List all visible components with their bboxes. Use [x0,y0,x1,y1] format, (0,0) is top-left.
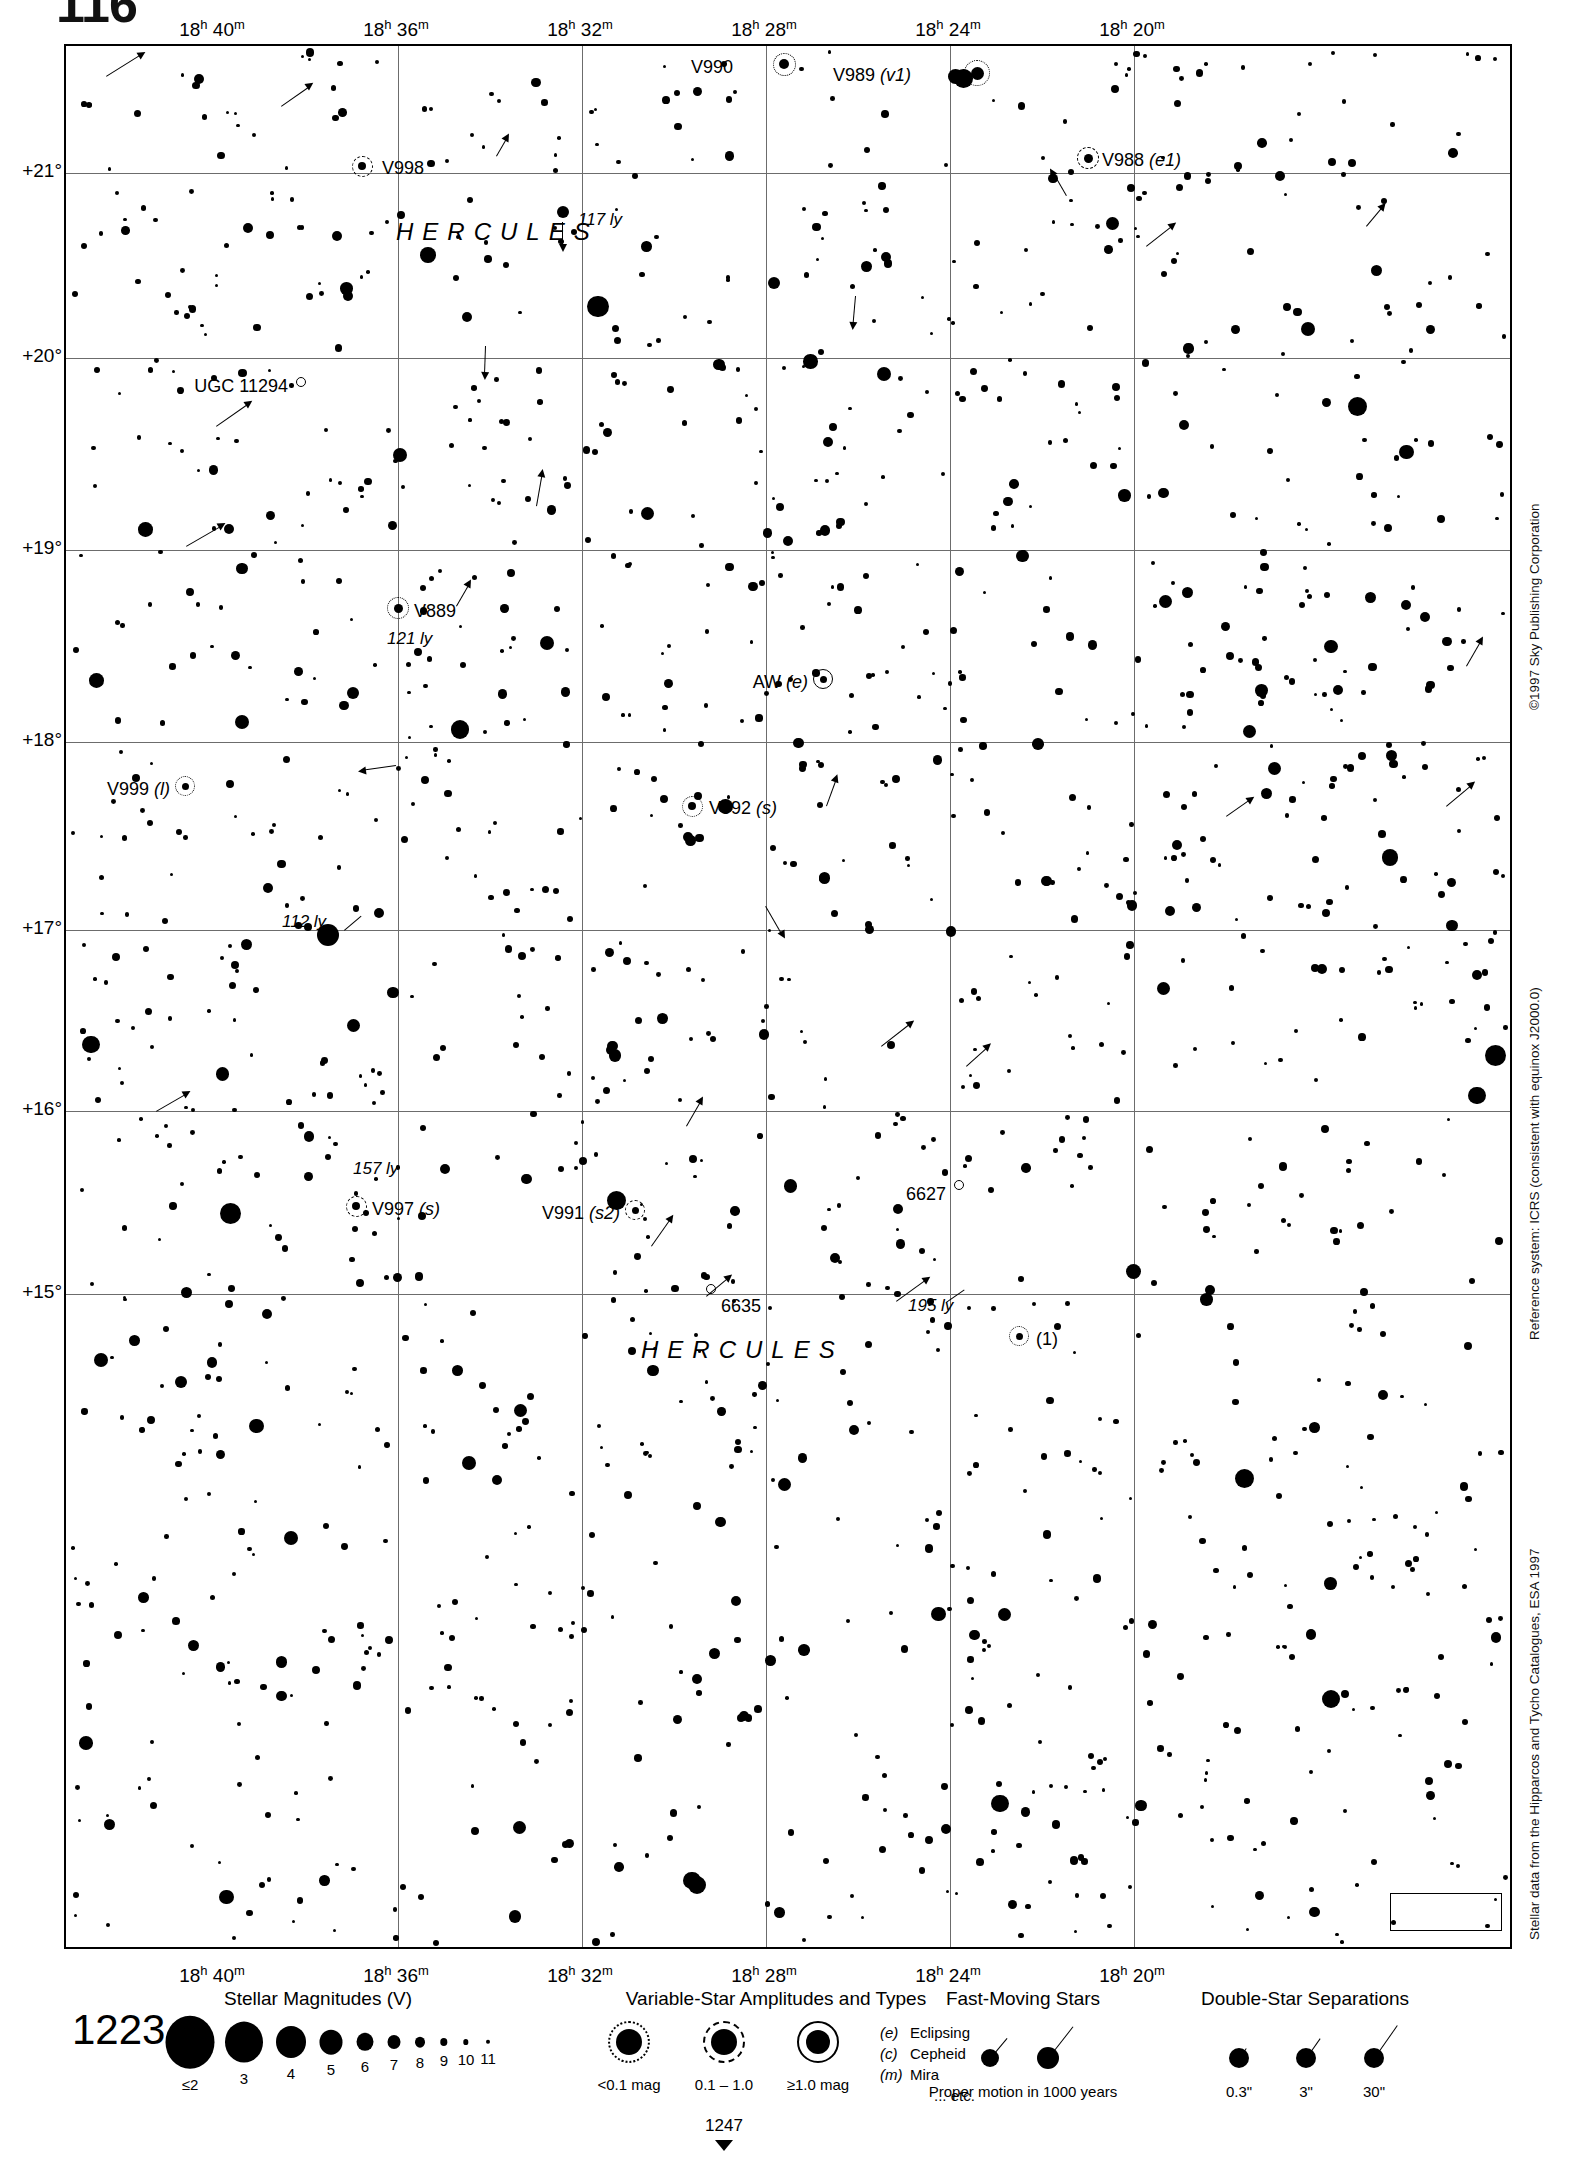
star-marker [745,394,748,397]
ra-tick-label: 18h 40m [179,17,245,41]
legend-magnitude-dot [415,2037,425,2048]
star-marker [673,1715,682,1724]
star-marker [850,284,855,289]
star-marker [1244,585,1248,589]
star-marker [782,366,786,370]
star-marker [787,978,791,982]
star-marker [1077,1153,1082,1158]
dec-tick-label: +19° [0,537,62,559]
star-marker [429,1686,433,1690]
star-marker [453,405,457,409]
star-marker [520,1015,524,1019]
object-label: (1) [1036,1329,1058,1350]
star-marker [900,1116,906,1122]
star-marker [338,108,347,117]
star-marker [1472,970,1482,980]
star-marker [846,1619,850,1623]
star-marker [306,293,313,300]
star-marker [433,1054,440,1061]
star-marker [1212,1235,1216,1239]
star-marker [683,315,687,319]
star-marker [337,865,341,869]
star-marker [400,1884,406,1890]
star-marker [537,399,542,404]
star-marker [635,1017,642,1024]
star-marker [1200,1805,1204,1809]
star-marker [587,296,608,317]
star-marker [1032,1302,1036,1306]
star-marker [605,1463,609,1467]
star-marker [1247,1203,1251,1207]
star-marker [1210,444,1214,448]
star-marker [591,967,596,972]
star-marker [1413,1556,1419,1562]
star-marker [1129,1618,1134,1623]
star-marker [274,541,277,544]
star-marker [669,1624,674,1629]
star-marker [765,1655,776,1666]
legend-magnitude-value: ≤2 [182,2076,199,2093]
star-marker [689,1037,693,1041]
star-marker [224,243,230,249]
star-marker [1346,1465,1349,1468]
variable-amplitude-ring [1009,1326,1029,1346]
star-marker [1420,612,1430,622]
star-marker [468,484,471,487]
star-marker [285,903,289,907]
star-marker [866,1282,871,1287]
star-marker [571,1621,575,1625]
star-marker [216,1376,222,1382]
star-marker [401,836,408,843]
star-marker [581,1627,587,1633]
star-chart-map[interactable]: V990V989 (v1)V988 (e1)V998UGC 11294V889A… [64,44,1512,1949]
star-marker [1305,589,1309,593]
star-marker [1297,112,1301,116]
star-marker [1293,1451,1297,1455]
star-marker [248,666,251,669]
star-marker [973,1462,979,1468]
star-marker [840,1369,846,1375]
star-marker [175,1461,182,1468]
star-marker [143,946,149,952]
star-marker [1486,1617,1492,1623]
star-marker [1387,311,1392,316]
star-marker [1399,445,1413,459]
star-marker [1380,1331,1386,1337]
star-marker [1345,1381,1351,1387]
star-marker [343,507,349,513]
object-label: 6627 [66,1184,946,1205]
star-marker [1136,1333,1141,1338]
star-marker [353,905,359,911]
star-marker [847,1400,853,1406]
star-marker [1181,958,1185,962]
star-marker [347,1019,360,1032]
star-marker [168,1016,172,1020]
star-marker [1456,132,1461,137]
star-marker [1309,1770,1313,1774]
star-marker [1018,1276,1024,1282]
star-marker [188,1640,199,1651]
star-marker [1118,447,1121,450]
star-marker [1173,1063,1178,1068]
star-marker [285,1385,291,1391]
star-marker [1221,622,1230,631]
star-marker [1262,636,1266,640]
star-marker [545,1006,549,1010]
star-marker [979,742,987,750]
star-marker [352,1367,356,1371]
star-marker [1136,235,1139,238]
star-marker [1243,725,1257,739]
star-marker [286,1099,292,1105]
star-marker [1114,1097,1120,1103]
legend-variable-core [806,2030,830,2054]
star-marker [733,90,737,94]
star-marker [141,205,146,210]
star-marker [393,1907,397,1911]
star-marker [1070,223,1073,226]
star-marker [752,1392,756,1396]
star-marker [729,1464,734,1469]
star-marker [1437,515,1445,523]
star-marker [488,895,493,900]
star-marker [759,1029,770,1040]
star-marker [1193,1459,1200,1466]
